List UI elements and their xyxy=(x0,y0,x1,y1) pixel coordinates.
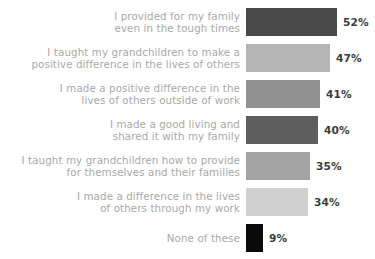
bar-value-label: 41% xyxy=(326,88,352,100)
chart-row: I made a positive difference in the live… xyxy=(0,79,375,109)
bar-group: 9% xyxy=(246,223,287,253)
category-label: I made a positive difference in the live… xyxy=(0,82,240,107)
chart-row: I made a good living and shared it with … xyxy=(0,115,375,145)
bar-group: 52% xyxy=(246,7,369,37)
category-label: I taught my grandchildren how to provide… xyxy=(0,154,240,179)
bar-value-label: 9% xyxy=(269,232,287,244)
bar xyxy=(246,8,337,36)
chart-row: I taught my grandchildren to make a posi… xyxy=(0,43,375,73)
bar-group: 47% xyxy=(246,43,362,73)
category-label: I made a good living and shared it with … xyxy=(0,118,240,143)
bar xyxy=(246,152,310,180)
bar xyxy=(246,116,318,144)
chart-row: I taught my grandchildren how to provide… xyxy=(0,151,375,181)
bar-value-label: 52% xyxy=(343,16,369,28)
category-label: I provided for my family even in the tou… xyxy=(0,10,240,35)
bar-value-label: 35% xyxy=(316,160,342,172)
bar-group: 34% xyxy=(246,187,340,217)
bar xyxy=(246,80,320,108)
category-label: None of these xyxy=(0,232,240,244)
horizontal-bar-chart: I provided for my family even in the tou… xyxy=(0,0,375,259)
bar xyxy=(246,224,263,252)
category-label: I taught my grandchildren to make a posi… xyxy=(0,46,240,71)
bar-value-label: 47% xyxy=(336,52,362,64)
bar-group: 41% xyxy=(246,79,352,109)
bar xyxy=(246,44,330,72)
bar-value-label: 40% xyxy=(324,124,350,136)
chart-row: I made a difference in the lives of othe… xyxy=(0,187,375,217)
bar-value-label: 34% xyxy=(314,196,340,208)
bar-group: 35% xyxy=(246,151,342,181)
chart-row: I provided for my family even in the tou… xyxy=(0,7,375,37)
bar-group: 40% xyxy=(246,115,350,145)
bar xyxy=(246,188,308,216)
chart-row: None of these9% xyxy=(0,223,375,253)
category-label: I made a difference in the lives of othe… xyxy=(0,190,240,215)
